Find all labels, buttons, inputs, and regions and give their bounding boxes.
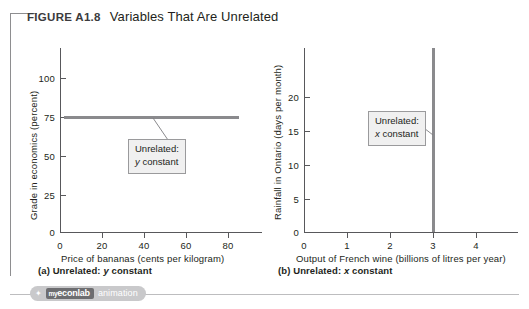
panel-caption-a-suffix: constant [112, 265, 152, 276]
y-axis-title-a: Grade in economics (percent) [28, 91, 39, 220]
x-ticklabel-a-80: 80 [223, 240, 234, 251]
x-ticklabel-b-0: 0 [301, 240, 306, 251]
x-tick-b-3 [433, 233, 434, 238]
y-tick-b-15 [305, 131, 310, 132]
x-ticklabel-b-3: 3 [430, 240, 435, 251]
x-ticklabel-b-4: 4 [473, 240, 478, 251]
callout-b-line2: constant [382, 128, 418, 139]
y-tick-b-10 [305, 165, 310, 166]
y-tick-a-100 [61, 78, 66, 79]
figure-heading: FIGURE A1.8Variables That Are Unrelated [27, 8, 278, 24]
callout-a-line2: constant [142, 156, 178, 167]
callout-a-line1: Unrelated: [135, 143, 179, 154]
panel-caption-a: (a) Unrelated: y constant [38, 265, 152, 276]
x-tick-a-20 [102, 233, 103, 238]
myeconlab-badge[interactable]: ✦ myeconlab animation [30, 286, 146, 301]
x-tick-a-80 [228, 233, 229, 238]
y-tick-b-20 [305, 97, 310, 98]
plot-area-a: 100 75 50 25 0 0 20 40 60 80 [20, 40, 270, 240]
plot-area-b: 20 15 10 5 0 0 1 2 3 4 Unrel [262, 40, 524, 240]
x-axis-b [304, 232, 518, 233]
myeconlab-logo-name: econlab [57, 288, 90, 298]
myeconlab-badge-text: animation [98, 289, 138, 298]
x-axis-title-a: Price of bananas (cents per kilogram) [61, 253, 224, 264]
y-tick-a-25 [61, 195, 66, 196]
x-ticklabel-a-60: 60 [181, 240, 192, 251]
x-ticklabel-a-40: 40 [139, 240, 150, 251]
panel-caption-a-var: y [103, 265, 108, 276]
x-tick-b-2 [390, 233, 391, 238]
panel-caption-b-var: x [344, 265, 349, 276]
x-ticklabel-b-1: 1 [344, 240, 349, 251]
series-line-x-constant [432, 48, 435, 232]
y-tick-a-50 [61, 156, 66, 157]
x-tick-a-40 [144, 233, 145, 238]
myeconlab-logo: myeconlab [46, 288, 94, 300]
chart-panel-b: 20 15 10 5 0 0 1 2 3 4 Unrel [262, 40, 524, 260]
callout-box-a: Unrelated: y constant [128, 139, 186, 174]
y-tick-b-5 [305, 199, 310, 200]
series-line-y-constant [64, 116, 239, 119]
callout-a-var: y [135, 156, 140, 167]
chart-panel-a: 100 75 50 25 0 0 20 40 60 80 [20, 40, 270, 260]
myeconlab-logo-prefix: my [49, 290, 58, 297]
x-axis-a [60, 232, 262, 233]
y-ticklabel-a-100: 100 [30, 73, 55, 84]
x-tick-b-4 [476, 233, 477, 238]
y-ticklabel-a-0: 0 [30, 227, 55, 238]
x-tick-a-60 [186, 233, 187, 238]
callout-b-var: x [375, 128, 380, 139]
x-tick-b-1 [347, 233, 348, 238]
x-ticklabel-a-0: 0 [57, 240, 62, 251]
figure-label: FIGURE A1.8 [27, 11, 101, 23]
page-title: Variables That Are Unrelated [110, 9, 279, 24]
panel-caption-a-prefix: (a) Unrelated: [38, 265, 101, 276]
myeconlab-mark-icon: ✦ [35, 290, 42, 298]
y-axis-b [304, 48, 305, 232]
y-axis-a [60, 48, 61, 232]
x-ticklabel-a-20: 20 [97, 240, 108, 251]
figure-container: FIGURE A1.8Variables That Are Unrelated … [0, 0, 529, 309]
panel-caption-b-prefix: (b) Unrelated: [278, 265, 341, 276]
x-axis-title-b: Output of French wine (billions of litre… [296, 253, 506, 264]
y-axis-title-b: Rainfall in Ontario (days per month) [272, 65, 283, 220]
x-ticklabel-b-2: 2 [387, 240, 392, 251]
callout-b-line1: Unrelated: [375, 115, 419, 126]
y-ticklabel-b-0: 0 [274, 227, 299, 238]
panel-caption-b: (b) Unrelated: x constant [278, 265, 392, 276]
panel-caption-b-suffix: constant [352, 265, 392, 276]
callout-box-b: Unrelated: x constant [368, 111, 426, 146]
